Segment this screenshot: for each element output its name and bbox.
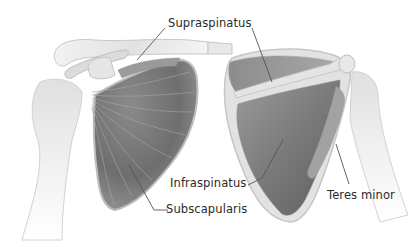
humerus-left xyxy=(22,79,82,240)
acromion-right xyxy=(339,55,355,73)
clavicle-right xyxy=(208,42,232,54)
label-infraspinatus: Infraspinatus xyxy=(170,176,246,190)
label-subscapularis: Subscapularis xyxy=(166,202,247,216)
acromion-left xyxy=(88,57,115,79)
label-supraspinatus: Supraspinatus xyxy=(168,16,252,30)
label-teres-minor: Teres minor xyxy=(327,188,395,202)
leader-teres-minor xyxy=(336,144,349,184)
